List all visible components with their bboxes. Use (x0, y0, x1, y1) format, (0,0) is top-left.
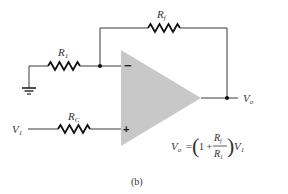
output-node-dot (225, 96, 229, 100)
inverting-sign: − (124, 58, 132, 73)
rf-resistor-icon (148, 24, 180, 32)
formula-denominator: R1 (213, 148, 223, 160)
inverting-node-dot (98, 64, 102, 68)
opamp: − + (121, 50, 201, 146)
input-branch: V1 RC (12, 110, 121, 137)
circuit-diagram: Rf R1 − + Vo V1 RC Vo = ( (0, 0, 288, 194)
r1-label: R1 (57, 46, 68, 60)
v1-input-label: V1 (12, 123, 22, 137)
rf-label: Rf (156, 8, 167, 22)
vo-output-label: Vo (243, 92, 254, 106)
rc-label: RC (67, 110, 80, 124)
r1-resistor-icon (48, 62, 80, 70)
formula-vo: Vo (171, 140, 182, 154)
formula-one-plus: 1 + (199, 141, 213, 152)
formula-v1: V1 (234, 140, 244, 154)
ground-icon (22, 88, 36, 94)
figure-caption: (b) (131, 176, 143, 188)
gain-formula: Vo = ( 1 + Rf R1 ) V1 (171, 132, 244, 160)
formula-numerator: Rf (213, 132, 223, 144)
r1-branch: R1 (22, 46, 121, 94)
opamp-triangle-icon (121, 50, 201, 146)
rc-resistor-icon (58, 125, 90, 133)
noninverting-sign: + (123, 123, 129, 135)
